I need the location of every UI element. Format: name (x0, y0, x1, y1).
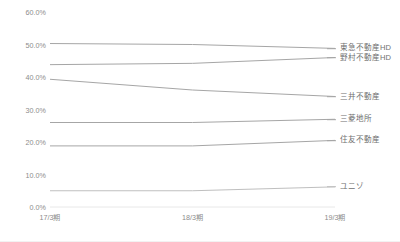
series-line[interactable] (50, 44, 335, 49)
y-axis-tick-label: 30.0% (0, 105, 46, 114)
y-axis-tick-label: 10.0% (0, 170, 46, 179)
series-line[interactable] (50, 119, 335, 122)
series-line[interactable] (50, 140, 335, 146)
x-axis-tick-label: 19/3期 (325, 212, 346, 222)
legend-entry[interactable]: 野村不動産HD (327, 54, 391, 62)
x-axis-tick-label: 17/3期 (40, 212, 61, 222)
legend-entry[interactable]: 東急不動産HD (327, 45, 391, 53)
legend-label: 三井不動産 (340, 93, 380, 101)
legend-line-swatch (327, 57, 336, 58)
legend-line-swatch (327, 140, 336, 141)
y-axis-tick-label: 40.0% (0, 73, 46, 82)
legend-label: ユニゾ (340, 183, 364, 191)
legend-line-swatch (327, 48, 336, 49)
legend-entry[interactable]: 住友不動産 (327, 137, 380, 145)
legend-label: 東急不動産HD (340, 45, 391, 53)
y-axis-tick-label: 0.0% (0, 203, 46, 212)
y-axis-tick-label: 60.0% (0, 8, 46, 17)
legend-line-swatch (327, 96, 336, 97)
legend-label: 野村不動産HD (340, 54, 391, 62)
x-axis-tick-label: 18/3期 (182, 212, 203, 222)
legend-line-swatch (327, 186, 336, 187)
series-canvas (50, 12, 335, 207)
plot-area (50, 12, 335, 207)
series-line[interactable] (50, 187, 335, 191)
legend-entry[interactable]: ユニゾ (327, 183, 364, 191)
y-axis-tick-label: 20.0% (0, 138, 46, 147)
legend-label: 住友不動産 (340, 137, 380, 145)
y-axis-tick-label: 50.0% (0, 40, 46, 49)
series-line[interactable] (50, 58, 335, 65)
series-line[interactable] (50, 79, 335, 96)
legend-entry[interactable]: 三井不動産 (327, 93, 380, 101)
legend-line-swatch (327, 119, 336, 120)
legend-label: 三菱地所 (340, 115, 372, 123)
line-chart: 0.0%10.0%20.0%30.0%40.0%50.0%60.0% 17/3期… (0, 0, 400, 242)
legend-entry[interactable]: 三菱地所 (327, 115, 372, 123)
